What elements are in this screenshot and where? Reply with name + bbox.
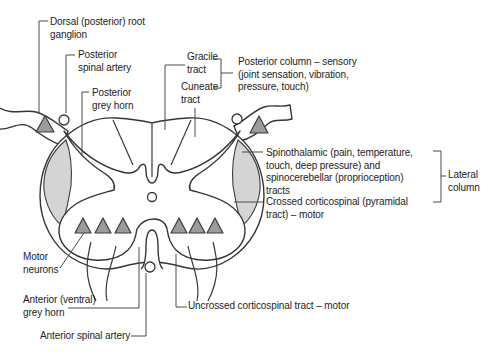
- label-posterior-grey-horn: Posterior grey horn: [92, 87, 133, 112]
- label-cuneate-tract: Cuneate tract: [181, 81, 218, 106]
- label-gracile-tract: Gracile tract: [187, 51, 218, 76]
- label-posterior-spinal-artery: Posterior spinal artery: [78, 49, 131, 74]
- pointer-dorsal-root-ganglion: [39, 21, 48, 114]
- anterior-spinal-artery-circle: [145, 262, 155, 272]
- label-dorsal-root-ganglion: Dorsal (posterior) root ganglion: [50, 16, 145, 41]
- posterior-spinal-artery-right-circle: [232, 114, 242, 124]
- label-posterior-column: Posterior column – sensory (joint sensat…: [238, 56, 357, 94]
- label-uncrossed-corticospinal: Uncrossed corticospinal tract – motor: [188, 300, 349, 313]
- label-crossed-corticospinal: Crossed corticospinal (pyramidal tract) …: [266, 196, 408, 221]
- spinal-cord-cross-section-diagram: Dorsal (posterior) root ganglion Posteri…: [0, 0, 499, 359]
- label-motor-neurons: Motor neurons: [23, 251, 58, 276]
- central-canal: [148, 193, 157, 202]
- bracket-lateral-column: [433, 151, 441, 202]
- label-spinothalamic: Spinothalamic (pain, temperature, touch,…: [266, 147, 413, 197]
- dorsal-root-left: [0, 107, 68, 146]
- label-anterior-spinal-artery: Anterior spinal artery: [40, 330, 130, 343]
- label-anterior-grey-horn: Anterior (ventral) grey horn: [23, 294, 96, 319]
- label-lateral-column: Lateral column: [448, 169, 480, 194]
- posterior-spinal-artery-left-circle: [59, 115, 69, 125]
- pointer-posterior-spinal-artery: [66, 55, 75, 113]
